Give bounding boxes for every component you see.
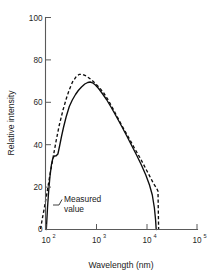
x-tick-base-1e4: 10 (142, 236, 152, 245)
chart-background (0, 0, 215, 278)
y-tick-label-0: 0 (38, 225, 43, 234)
x-tick-exponent-1e5: 5 (203, 233, 206, 239)
chart-figure: 0 20 40 60 80 100 10 2 10 3 10 4 10 5 (0, 0, 215, 278)
y-axis-title: Relative intensity (6, 90, 16, 156)
x-tick-base-1e3: 10 (92, 236, 102, 245)
x-tick-base-1e2: 10 (41, 236, 51, 245)
x-tick-exponent-1e2: 2 (52, 233, 55, 239)
x-tick-exponent-1e3: 3 (103, 233, 106, 239)
x-axis-title: Wavelength (nm) (88, 260, 153, 270)
x-tick-exponent-1e4: 4 (153, 233, 156, 239)
y-tick-label-40: 40 (33, 141, 43, 150)
y-tick-label-20: 20 (33, 183, 43, 192)
measured-value-label-line1: Measured (64, 194, 102, 204)
measured-value-label-line2: value (64, 204, 84, 214)
x-tick-base-1e5: 10 (192, 236, 202, 245)
y-tick-label-60: 60 (33, 98, 43, 107)
spectral-intensity-chart: 0 20 40 60 80 100 10 2 10 3 10 4 10 5 (0, 0, 215, 278)
y-tick-label-100: 100 (29, 14, 43, 23)
y-tick-label-80: 80 (33, 56, 43, 65)
